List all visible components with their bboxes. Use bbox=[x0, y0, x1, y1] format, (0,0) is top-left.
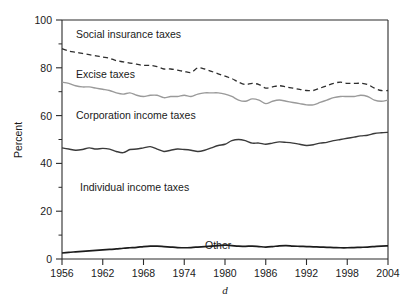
x-tick-label-1956: 1956 bbox=[50, 267, 74, 279]
y-tick-label-100: 100 bbox=[34, 14, 52, 26]
x-tick-label-1962: 1962 bbox=[91, 267, 115, 279]
y-tick-label-80: 80 bbox=[40, 62, 52, 74]
annotation-individual-income-taxes: Individual income taxes bbox=[80, 181, 189, 193]
tax-composition-chart: 100 80 60 40 20 0 Percent 1956 1962 1968 bbox=[0, 0, 416, 302]
annotation-social-insurance-taxes: Social insurance taxes bbox=[76, 28, 181, 40]
x-tick-label-1974: 1974 bbox=[173, 267, 197, 279]
x-tick-label-1968: 1968 bbox=[132, 267, 156, 279]
y-tick-label-60: 60 bbox=[40, 110, 52, 122]
x-tick-label-1986: 1986 bbox=[254, 267, 278, 279]
annotation-excise-taxes: Excise taxes bbox=[76, 68, 135, 80]
chart-figure: 100 80 60 40 20 0 Percent 1956 1962 1968 bbox=[0, 0, 416, 302]
x-axis-title: d bbox=[222, 284, 228, 296]
y-tick-label-20: 20 bbox=[40, 205, 52, 217]
y-axis-title: Percent bbox=[12, 122, 24, 158]
x-tick-label-1998: 1998 bbox=[336, 267, 360, 279]
y-tick-label-0: 0 bbox=[46, 253, 52, 265]
x-tick-label-2004: 2004 bbox=[376, 267, 400, 279]
x-axis-tick-labels: 1956 1962 1968 1974 1980 1986 1992 1998 … bbox=[50, 267, 400, 279]
x-tick-label-1980: 1980 bbox=[213, 267, 237, 279]
annotation-other: Other bbox=[205, 239, 232, 251]
x-tick-label-1992: 1992 bbox=[295, 267, 319, 279]
annotation-corporation-income-taxes: Corporation income taxes bbox=[76, 109, 196, 121]
y-tick-label-40: 40 bbox=[40, 157, 52, 169]
